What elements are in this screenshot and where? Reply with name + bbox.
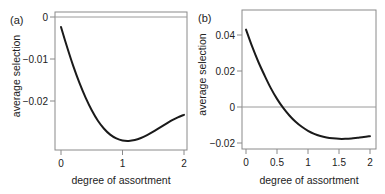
plot-frame [55, 12, 187, 150]
y-tick-label: −0.02 [23, 96, 49, 107]
x-tick-label: 0 [243, 157, 249, 168]
x-tick-label: 1.5 [332, 157, 346, 168]
figure: 0−0.01−0.02012degree of assortmentaverag… [0, 0, 385, 194]
x-axis-title: degree of assortment [71, 174, 170, 186]
y-tick-label: 0 [42, 12, 48, 23]
panel-b: 0.040.020−0.0200.511.52degree of assortm… [196, 10, 376, 186]
x-tick-label: 0.5 [270, 157, 284, 168]
selection-curve [61, 27, 184, 141]
x-tick-label: 1 [120, 158, 126, 169]
x-tick-label: 2 [367, 157, 373, 168]
y-axis-title: average selection [196, 33, 208, 115]
x-tick-label: 1 [305, 157, 311, 168]
y-axis-title: average selection [10, 35, 22, 117]
x-tick-label: 2 [181, 158, 187, 169]
y-tick-label: 0 [229, 102, 235, 113]
y-tick-label: 0.04 [216, 30, 236, 41]
panel-label: (a) [10, 14, 23, 26]
y-tick-label: −0.02 [210, 138, 236, 149]
panel-label: (b) [198, 12, 211, 24]
plot-frame [242, 10, 376, 149]
y-tick-label: 0.02 [216, 66, 236, 77]
y-tick-label: −0.01 [23, 54, 49, 65]
x-axis-title: degree of assortment [259, 174, 358, 186]
panel-a: 0−0.01−0.02012degree of assortmentaverag… [10, 12, 187, 187]
selection-curve [246, 30, 370, 139]
x-tick-label: 0 [58, 158, 64, 169]
